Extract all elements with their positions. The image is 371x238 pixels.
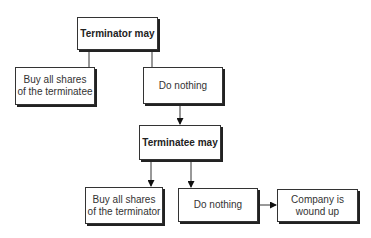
- node-do-nothing-1: Do nothing: [143, 67, 223, 104]
- node-label: Buy all shares of the terminator: [88, 194, 161, 218]
- node-terminatee: Terminatee may: [139, 125, 221, 160]
- node-label: Terminatee may: [142, 137, 217, 149]
- node-wound-up: Company is wound up: [277, 189, 358, 222]
- node-label: Do nothing: [194, 199, 242, 211]
- node-buy-terminatee: Buy all shares of the terminatee: [15, 67, 95, 105]
- node-terminator: Terminator may: [77, 17, 158, 50]
- node-label: Terminator may: [80, 28, 154, 40]
- node-buy-terminator: Buy all shares of the terminator: [85, 187, 163, 224]
- node-label: Buy all shares of the terminatee: [17, 74, 92, 98]
- node-do-nothing-2: Do nothing: [178, 188, 258, 222]
- node-label: Company is wound up: [291, 194, 344, 218]
- node-label: Do nothing: [159, 80, 207, 92]
